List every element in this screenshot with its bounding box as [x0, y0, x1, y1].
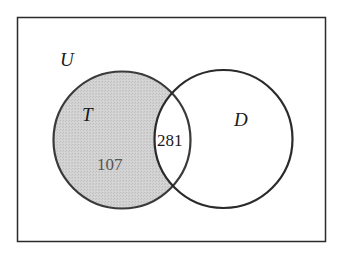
venn-diagram: U T D 107 281 [0, 0, 345, 253]
set-d-label: D [233, 109, 248, 130]
set-t-label: T [82, 104, 94, 125]
region-t-only-value: 107 [97, 155, 123, 174]
region-t-and-d-value: 281 [157, 131, 183, 150]
universe-label: U [60, 49, 75, 70]
